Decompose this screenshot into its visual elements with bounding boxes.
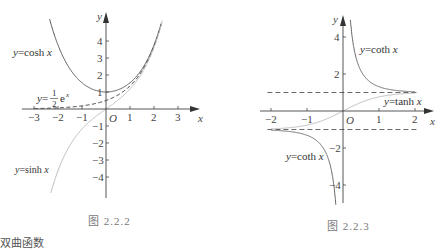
svg-text:x: x bbox=[65, 91, 70, 99]
x-tick-label: −3 bbox=[28, 111, 40, 123]
x-tick-label: 1 bbox=[127, 111, 133, 123]
right-origin-label: O bbox=[346, 114, 354, 126]
x-axis-arrow-icon bbox=[424, 108, 434, 114]
svg-text:y=: y= bbox=[36, 92, 48, 104]
y-tick-label: 3 bbox=[97, 52, 103, 64]
y-tick-label: 2 bbox=[97, 69, 103, 81]
x-tick-label: 3 bbox=[175, 111, 181, 123]
svg-text:2: 2 bbox=[52, 99, 57, 109]
svg-text:e: e bbox=[60, 92, 65, 104]
chart-hyperbolic-cosh-sinh: −3−2−1123−4−3−2−11234 x y O y=cosh x y= … bbox=[12, 10, 203, 198]
y-tick-label: −1 bbox=[92, 120, 104, 132]
y-tick-label: −4 bbox=[329, 179, 341, 191]
chart-hyperbolic-tanh-coth: −2−112−4−224 x y O y=coth x y=tanh x y=c… bbox=[260, 13, 435, 205]
y-tick-label: −4 bbox=[92, 171, 104, 183]
left-origin-label: O bbox=[109, 112, 117, 124]
left-x-axis-label: x bbox=[197, 112, 203, 124]
y-axis-arrow-icon bbox=[340, 15, 346, 26]
x-tick-label: 2 bbox=[412, 113, 418, 125]
curve-coth bbox=[350, 20, 415, 92]
y-axis-arrow-icon bbox=[103, 12, 109, 23]
curve-cosh bbox=[50, 19, 162, 92]
right-y-axis bbox=[340, 15, 346, 203]
x-tick-label: −2 bbox=[265, 113, 277, 125]
label-coth-negative: y=coth x bbox=[285, 150, 324, 162]
left-y-axis-label: y bbox=[96, 10, 102, 22]
x-tick-label: 1 bbox=[376, 113, 382, 125]
label-cosh: y=cosh x bbox=[12, 46, 52, 58]
curve-coth bbox=[271, 130, 336, 205]
y-tick-label: 2 bbox=[334, 68, 340, 80]
svg-text:1: 1 bbox=[52, 88, 57, 98]
y-tick-label: −3 bbox=[92, 154, 104, 166]
label-half-exp: y= 1 2 e x bbox=[36, 88, 70, 109]
y-tick-label: −2 bbox=[329, 142, 341, 154]
right-y-axis-label: y bbox=[332, 13, 338, 25]
label-sinh: y=sinh x bbox=[14, 164, 49, 175]
y-tick-label: 4 bbox=[97, 35, 103, 47]
left-y-axis bbox=[103, 12, 109, 198]
label-tanh: y=tanh x bbox=[383, 95, 422, 107]
label-coth-positive: y=coth x bbox=[359, 43, 398, 55]
y-tick-label: −2 bbox=[92, 137, 104, 149]
x-tick-label: −2 bbox=[52, 111, 64, 123]
body-text-fragment: 双曲函数 bbox=[0, 234, 44, 250]
figure-caption-right: 图 2.2.3 bbox=[327, 217, 370, 233]
y-tick-label: 1 bbox=[97, 86, 103, 98]
y-tick-label: 4 bbox=[334, 31, 340, 43]
x-tick-label: −1 bbox=[301, 113, 313, 125]
x-tick-label: −1 bbox=[76, 111, 88, 123]
figure-caption-left: 图 2.2.2 bbox=[88, 212, 131, 228]
x-tick-label: 2 bbox=[151, 111, 157, 123]
right-x-axis-label: x bbox=[429, 115, 435, 127]
